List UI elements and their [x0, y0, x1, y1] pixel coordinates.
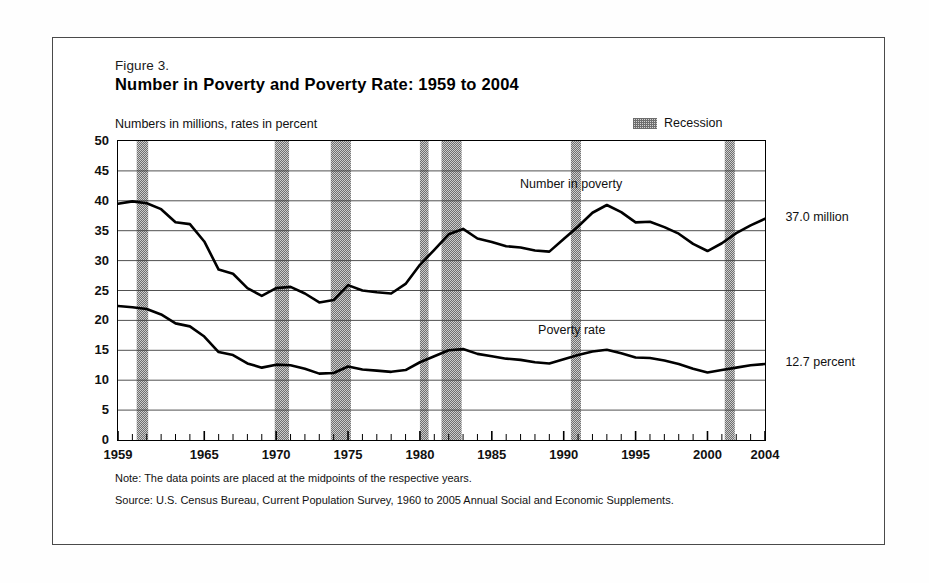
series-label-rate: Poverty rate	[538, 323, 605, 337]
callout-poverty-rate: 12.7 percent	[785, 355, 855, 369]
x-axis-tick-label: 1980	[397, 447, 443, 462]
figure-source: Source: U.S. Census Bureau, Current Popu…	[115, 494, 674, 506]
x-axis-tick-label: 1970	[253, 447, 299, 462]
units-subtitle: Numbers in millions, rates in percent	[115, 117, 317, 131]
y-axis-tick-label: 10	[83, 372, 109, 387]
x-axis-tick-label: 1959	[95, 447, 141, 462]
figure-page: Figure 3. Number in Poverty and Poverty …	[0, 0, 929, 583]
x-axis-tick-label: 1995	[613, 447, 659, 462]
legend-label: Recession	[664, 116, 722, 130]
x-axis-tick-label: 1985	[469, 447, 515, 462]
y-axis-tick-label: 40	[83, 193, 109, 208]
x-axis-tick-label: 1990	[541, 447, 587, 462]
recession-swatch-icon	[633, 118, 657, 129]
y-axis-tick-label: 35	[83, 223, 109, 238]
y-axis-tick-label: 30	[83, 253, 109, 268]
y-axis-tick-label: 15	[83, 342, 109, 357]
x-axis-tick-label: 2000	[684, 447, 730, 462]
chart-svg	[117, 140, 766, 441]
x-axis-tick-label: 2004	[742, 447, 788, 462]
figure-number: Figure 3.	[115, 58, 169, 73]
y-axis-tick-label: 50	[83, 133, 109, 148]
legend: Recession	[633, 116, 722, 130]
figure-border: Figure 3. Number in Poverty and Poverty …	[52, 37, 885, 545]
x-axis-tick-label: 1965	[181, 447, 227, 462]
x-axis-tick-label: 1975	[325, 447, 371, 462]
y-axis-tick-label: 5	[83, 402, 109, 417]
figure-note: Note: The data points are placed at the …	[115, 472, 472, 484]
figure-title: Number in Poverty and Poverty Rate: 1959…	[115, 75, 519, 94]
callout-number-in-poverty: 37.0 million	[785, 210, 848, 224]
series-label-number: Number in poverty	[520, 177, 622, 191]
y-axis-tick-label: 20	[83, 312, 109, 327]
plot-area: 05101520253035404550 1959196519701975198…	[117, 140, 766, 441]
y-axis-tick-label: 0	[83, 432, 109, 447]
y-axis-tick-label: 25	[83, 283, 109, 298]
y-axis-tick-label: 45	[83, 163, 109, 178]
